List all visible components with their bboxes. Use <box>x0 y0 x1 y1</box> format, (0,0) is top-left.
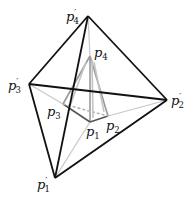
svg-text:p4: p4 <box>94 45 108 62</box>
svg-text:p2: p2 <box>106 118 120 135</box>
outer-tetrahedron <box>29 16 167 178</box>
label-p3: p3 <box>47 104 61 121</box>
label-p4-prime: p′4 <box>66 8 79 26</box>
svg-text:p′1: p′1 <box>37 176 50 194</box>
label-p1-prime: p′1 <box>37 176 50 194</box>
tetrahedra-diagram: p′4 p4 p′3 p′2 p3 p2 p1 p′1 <box>0 0 194 197</box>
label-p3-prime: p′3 <box>8 77 21 95</box>
label-p4: p4 <box>94 45 108 62</box>
label-p2-prime: p′2 <box>171 92 184 110</box>
label-p1: p1 <box>86 124 100 141</box>
svg-text:p3: p3 <box>47 104 61 121</box>
svg-text:p′2: p′2 <box>171 92 184 110</box>
label-p2: p2 <box>106 118 120 135</box>
svg-text:p′4: p′4 <box>66 8 79 26</box>
svg-text:p′3: p′3 <box>8 77 21 95</box>
svg-text:p1: p1 <box>86 124 100 141</box>
